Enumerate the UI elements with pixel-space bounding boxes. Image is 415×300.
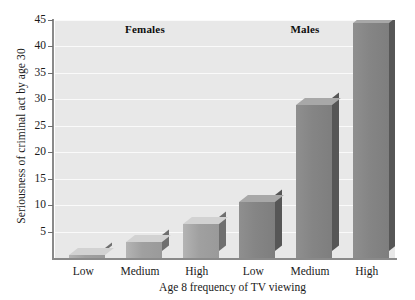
plot-area	[55, 20, 395, 258]
bar-front-face	[126, 242, 162, 258]
bar-front-face	[353, 23, 389, 258]
y-tick-label-40: 40	[20, 40, 46, 52]
x-axis-title: Age 8 frequency of TV viewing	[0, 281, 415, 293]
x-axis-line	[52, 258, 397, 260]
y-tick-mark-15	[48, 179, 53, 180]
bar-front-face	[183, 224, 219, 258]
y-tick-mark-35	[48, 73, 53, 74]
y-tick-mark-20	[48, 152, 53, 153]
bar-front-face	[239, 202, 275, 258]
group-header-females: Females	[90, 23, 200, 35]
gridline-15	[55, 179, 395, 180]
bar-males-low	[239, 202, 275, 258]
category-label-females-low: Low	[55, 265, 112, 277]
bar-front-face	[296, 105, 332, 258]
bar-top-face	[69, 248, 114, 255]
y-tick-label-35: 35	[20, 67, 46, 79]
y-tick-label-25: 25	[20, 120, 46, 132]
group-header-males: Males	[250, 23, 360, 35]
category-label-females-high: High	[168, 265, 225, 277]
bar-females-medium	[126, 242, 162, 258]
y-tick-mark-5	[48, 232, 53, 233]
gridline-35	[55, 73, 395, 74]
category-label-females-medium: Medium	[112, 265, 169, 277]
bar-females-high	[183, 224, 219, 258]
y-axis-line	[52, 19, 54, 259]
y-tick-mark-45	[48, 20, 53, 21]
gridline-45	[55, 20, 395, 21]
bar-chart: Seriousness of criminal act by age 30 51…	[0, 0, 415, 300]
y-tick-label-30: 30	[20, 93, 46, 105]
y-tick-label-20: 20	[20, 146, 46, 158]
gridline-10	[55, 205, 395, 206]
y-tick-label-45: 45	[20, 14, 46, 26]
category-label-males-high: High	[338, 265, 395, 277]
y-tick-mark-25	[48, 126, 53, 127]
y-tick-mark-40	[48, 46, 53, 47]
bar-side-face	[332, 92, 339, 251]
y-tick-label-5: 5	[20, 226, 46, 238]
gridline-20	[55, 152, 395, 153]
category-label-males-low: Low	[225, 265, 282, 277]
gridline-25	[55, 126, 395, 127]
gridline-40	[55, 46, 395, 47]
y-tick-mark-10	[48, 205, 53, 206]
y-tick-mark-30	[48, 99, 53, 100]
bar-side-face	[389, 20, 395, 251]
category-label-males-medium: Medium	[282, 265, 339, 277]
y-tick-label-10: 10	[20, 199, 46, 211]
gridline-30	[55, 99, 395, 100]
y-tick-label-15: 15	[20, 173, 46, 185]
bar-males-medium	[296, 105, 332, 258]
bar-males-high	[353, 23, 389, 258]
